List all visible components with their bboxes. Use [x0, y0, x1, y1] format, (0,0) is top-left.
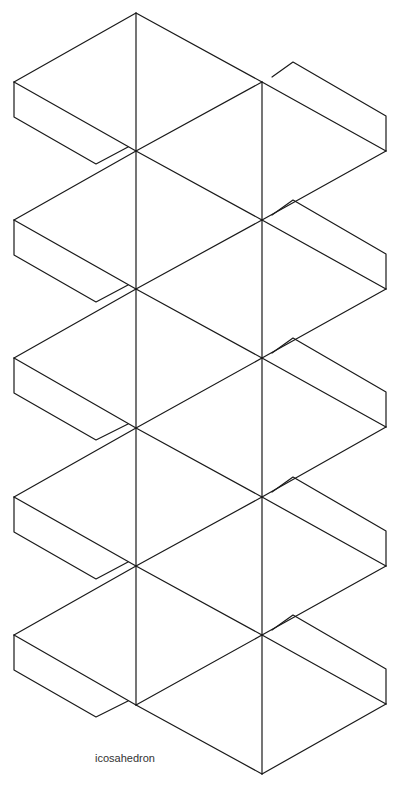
diagonal-edge [136, 151, 262, 220]
right-face-edge [262, 82, 386, 151]
diagonal-edge [136, 82, 262, 151]
left-glue-tab [14, 82, 128, 164]
diagonal-edge [136, 358, 262, 428]
left-glue-tab [14, 497, 128, 579]
diagonal-edge [136, 13, 262, 82]
right-face-edge [262, 497, 386, 566]
left-glue-tab [14, 220, 128, 302]
right-face-edge [262, 358, 386, 427]
icosahedron-net [0, 0, 400, 794]
right-face-edge [262, 151, 386, 220]
right-face-edge [262, 635, 386, 704]
left-face-edge [14, 13, 136, 82]
diagonal-edge [136, 289, 262, 358]
left-face-edge [14, 566, 136, 635]
left-face-edge [14, 151, 136, 220]
diagonal-edge [136, 566, 262, 635]
left-face-edge [14, 428, 136, 497]
diagram-label: icosahedron [95, 752, 155, 764]
right-glue-tab [272, 477, 386, 566]
right-face-edge [262, 566, 386, 635]
left-glue-tab [14, 358, 128, 440]
right-face-edge [262, 289, 386, 358]
left-face-edge [14, 497, 136, 566]
diagonal-edge [136, 635, 262, 705]
right-glue-tab [272, 62, 386, 151]
right-glue-tab [272, 200, 386, 289]
diagonal-edge [136, 220, 262, 289]
right-face-edge [262, 704, 386, 774]
right-glue-tab [272, 338, 386, 427]
left-glue-tab [14, 635, 128, 717]
right-glue-tab [272, 615, 386, 704]
left-face-edge [14, 220, 136, 289]
left-face-edge [14, 358, 136, 428]
left-face-edge [14, 635, 136, 705]
diagonal-edge [136, 428, 262, 497]
diagonal-edge [136, 497, 262, 566]
left-face-edge [14, 82, 136, 151]
right-face-edge [262, 220, 386, 289]
left-face-edge [14, 289, 136, 358]
